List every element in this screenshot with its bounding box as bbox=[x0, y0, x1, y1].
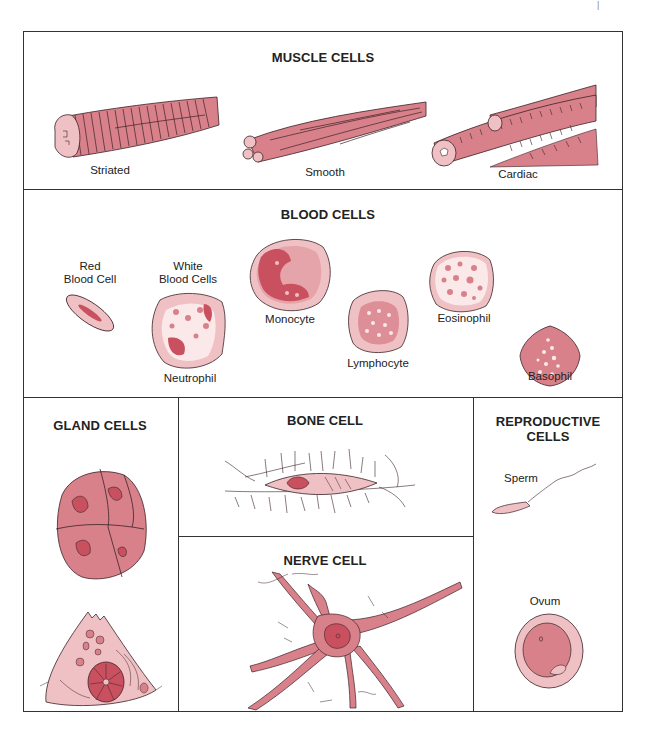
striated-muscle-illustration bbox=[45, 95, 225, 165]
divider-gland-center bbox=[178, 397, 179, 712]
nerve-cell-illustration bbox=[248, 572, 464, 710]
monocyte-label: Monocyte bbox=[250, 313, 330, 326]
ovum-illustration bbox=[514, 613, 584, 689]
nerve-cell-title: NERVE CELL bbox=[250, 553, 400, 568]
white-blood-cells-label-line2: Blood Cells bbox=[148, 273, 228, 286]
lymphocyte-label: Lymphocyte bbox=[338, 357, 418, 370]
cardiac-muscle-illustration bbox=[430, 85, 600, 167]
divider-muscle-blood bbox=[23, 189, 623, 190]
striated-label: Striated bbox=[70, 164, 150, 177]
gland-cells-title: GLAND CELLS bbox=[30, 418, 170, 433]
eosinophil-illustration bbox=[428, 248, 496, 314]
reproductive-cells-title-line1: REPRODUCTIVE bbox=[478, 414, 618, 429]
divider-bone-nerve bbox=[178, 536, 473, 537]
red-blood-cell-label-line2: Blood Cell bbox=[50, 273, 130, 286]
page-corner-mark: | bbox=[597, 0, 599, 10]
bone-cell-title: BONE CELL bbox=[250, 413, 400, 428]
muscle-cells-title: MUSCLE CELLS bbox=[223, 50, 423, 65]
divider-center-reproductive bbox=[473, 397, 474, 712]
monocyte-illustration bbox=[247, 235, 335, 313]
eosinophil-label: Eosinophil bbox=[424, 312, 504, 325]
gland-secretory-cell-illustration bbox=[40, 610, 164, 710]
blood-cells-title: BLOOD CELLS bbox=[228, 207, 428, 222]
ovum-label: Ovum bbox=[520, 595, 570, 608]
smooth-muscle-illustration bbox=[240, 100, 430, 165]
smooth-label: Smooth bbox=[280, 166, 370, 179]
neutrophil-label: Neutrophil bbox=[150, 372, 230, 385]
lymphocyte-illustration bbox=[345, 287, 411, 355]
bone-cell-illustration bbox=[225, 447, 415, 519]
cardiac-label: Cardiac bbox=[478, 168, 558, 181]
reproductive-cells-title-line2: CELLS bbox=[478, 429, 618, 444]
red-blood-cell-label-line1: Red bbox=[50, 260, 130, 273]
basophil-label: Basophil bbox=[510, 370, 590, 383]
gland-cells-cluster-illustration bbox=[52, 467, 148, 583]
white-blood-cells-label-line1: White bbox=[148, 260, 228, 273]
sperm-illustration bbox=[490, 462, 600, 518]
red-blood-cell-illustration bbox=[62, 290, 118, 336]
neutrophil-illustration bbox=[148, 290, 228, 372]
divider-blood-lower bbox=[23, 397, 623, 398]
